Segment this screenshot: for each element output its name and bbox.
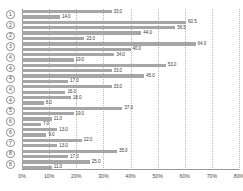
y-category-7: 7 bbox=[5, 139, 16, 147]
y-category-4: 4 bbox=[5, 86, 16, 94]
x-tick-label: 40% bbox=[125, 173, 135, 179]
circled-number-icon: 4 bbox=[6, 53, 15, 62]
bar bbox=[22, 123, 41, 126]
bar bbox=[22, 101, 44, 104]
bar-value-label: 34.0 bbox=[116, 52, 125, 57]
bar-value-label: 17.0 bbox=[70, 154, 79, 159]
x-axis-line bbox=[22, 169, 239, 170]
bar-value-label: 13.0 bbox=[59, 127, 68, 132]
circled-number-icon: 4 bbox=[6, 96, 15, 105]
y-category-4: 4 bbox=[5, 96, 16, 104]
circled-number-icon: 7 bbox=[6, 139, 15, 148]
bar-value-label: 40.0 bbox=[133, 47, 142, 52]
bar-value-label: 35.0 bbox=[119, 149, 128, 154]
bar-value-label: 19.0 bbox=[76, 111, 85, 116]
bar bbox=[22, 144, 57, 147]
y-category-3: 3 bbox=[5, 43, 16, 51]
bar-value-label: 25.0 bbox=[92, 160, 101, 165]
bar bbox=[22, 74, 144, 77]
bar-rows: 33.014.060.556.544.023.064.040.034.019.0… bbox=[22, 9, 239, 170]
bar-value-label: 44.0 bbox=[143, 31, 152, 36]
bar-value-label: 13.0 bbox=[59, 144, 68, 149]
x-tick-label: 60% bbox=[180, 173, 190, 179]
bar bbox=[22, 139, 82, 142]
bar-value-label: 18.0 bbox=[73, 95, 82, 100]
bar bbox=[22, 15, 60, 18]
circled-number-icon: 8 bbox=[6, 160, 15, 169]
y-category-8: 8 bbox=[5, 161, 16, 169]
bar-value-label: 19.0 bbox=[76, 58, 85, 63]
bar bbox=[22, 42, 196, 45]
x-tick-label: 50% bbox=[152, 173, 162, 179]
bar bbox=[22, 112, 74, 115]
y-category-2: 2 bbox=[5, 21, 16, 29]
circled-number-icon: 4 bbox=[6, 75, 15, 84]
bar bbox=[22, 133, 46, 136]
x-tick-label: 30% bbox=[98, 173, 108, 179]
bar-value-label: 7.0 bbox=[43, 122, 49, 127]
gridline-80 bbox=[239, 9, 241, 170]
bar bbox=[22, 91, 65, 94]
circled-number-icon: 2 bbox=[6, 32, 15, 41]
bar-value-label: 17.0 bbox=[70, 79, 79, 84]
bar-value-label: 8.0 bbox=[46, 101, 52, 106]
circled-number-icon: 5 bbox=[6, 107, 15, 116]
circled-number-icon: 4 bbox=[6, 64, 15, 73]
bar bbox=[22, 48, 131, 51]
circled-number-icon: 2 bbox=[6, 21, 15, 30]
bar-value-label: 37.0 bbox=[124, 106, 133, 111]
bar bbox=[22, 21, 186, 24]
bar-value-label: 33.0 bbox=[114, 85, 123, 90]
y-category-4: 4 bbox=[5, 75, 16, 83]
circled-number-icon: 8 bbox=[6, 150, 15, 159]
x-tick-label: 20% bbox=[71, 173, 81, 179]
y-category-8: 8 bbox=[5, 150, 16, 158]
bar-value-label: 22.0 bbox=[84, 138, 93, 143]
bar bbox=[22, 31, 141, 34]
x-tick-label: 10% bbox=[44, 173, 54, 179]
bar-value-label: 53.0 bbox=[168, 63, 177, 68]
bar-value-label: 33.0 bbox=[114, 68, 123, 73]
bar-value-label: 23.0 bbox=[86, 36, 95, 41]
plot-area: 33.014.060.556.544.023.064.040.034.019.0… bbox=[22, 9, 239, 170]
bar bbox=[22, 155, 68, 158]
x-axis-tick-labels: 0%10%20%30%40%50%60%70%80% bbox=[22, 173, 239, 183]
y-category-1: 1 bbox=[5, 10, 16, 18]
y-axis-category-labels: 122344444566788 bbox=[0, 9, 22, 170]
bar-value-label: 14.0 bbox=[62, 15, 71, 20]
y-category-5: 5 bbox=[5, 107, 16, 115]
circled-number-icon: 3 bbox=[6, 42, 15, 51]
y-category-6: 6 bbox=[5, 128, 16, 136]
bar-value-label: 33.0 bbox=[114, 9, 123, 14]
circled-number-icon: 1 bbox=[6, 10, 15, 19]
bar bbox=[22, 69, 112, 72]
y-category-6: 6 bbox=[5, 118, 16, 126]
x-tick-label: 0% bbox=[18, 173, 26, 179]
y-category-4: 4 bbox=[5, 64, 16, 72]
bar-value-label: 56.5 bbox=[177, 25, 186, 30]
bar-chart: 122344444566788 33.014.060.556.544.023.0… bbox=[0, 0, 243, 191]
bar bbox=[22, 53, 114, 56]
bar-value-label: 45.0 bbox=[146, 74, 155, 79]
bar bbox=[22, 64, 166, 67]
y-category-2: 2 bbox=[5, 32, 16, 40]
bar bbox=[22, 37, 84, 40]
bar-value-label: 11.0 bbox=[54, 117, 62, 122]
circled-number-icon: 6 bbox=[6, 128, 15, 137]
bar-value-label: 64.0 bbox=[198, 42, 207, 47]
bar-value-label: 60.5 bbox=[188, 20, 197, 25]
x-tick-label: 70% bbox=[207, 173, 217, 179]
circled-number-icon: 6 bbox=[6, 117, 15, 126]
x-tick-label: 80% bbox=[234, 173, 243, 179]
circled-number-icon: 4 bbox=[6, 85, 15, 94]
bar bbox=[22, 107, 122, 110]
bar-value-label: 9.0 bbox=[48, 133, 54, 138]
bar bbox=[22, 58, 74, 61]
y-category-4: 4 bbox=[5, 53, 16, 61]
bar bbox=[22, 80, 68, 83]
